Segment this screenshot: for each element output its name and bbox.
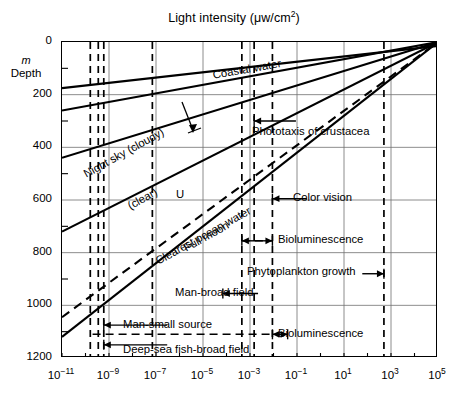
- x-tick-label: 10−3: [224, 366, 274, 381]
- y-axis-label: m Depth: [0, 54, 52, 79]
- plot-area: Night sky (cloudy) (clear) Full moon Coa…: [61, 41, 437, 357]
- y-tick-label: 1000: [8, 297, 52, 309]
- x-tick-label: 101: [318, 366, 368, 381]
- y-tick-label: 400: [8, 139, 52, 151]
- annotation-bioluminescence-lower: Bioluminescence: [278, 328, 363, 339]
- y-axis-name: Depth: [11, 67, 42, 79]
- y-tick-label: 200: [8, 87, 52, 99]
- grid-lines: [62, 42, 437, 357]
- y-tick-label: 800: [8, 245, 52, 257]
- annotation-man-small-source: Man-small source: [123, 319, 212, 330]
- x-tick-label: 10−5: [177, 366, 227, 381]
- y-tick-label: 600: [8, 192, 52, 204]
- chart-figure: Light intensity (μw/cm2) m Depth 0200400…: [0, 0, 468, 402]
- x-tick-label: 10−7: [130, 366, 180, 381]
- annotation-man-broad-field: Man-broad field: [175, 287, 254, 298]
- chart-title-main: Light intensity (μw/cm: [168, 11, 291, 25]
- annotation-phototaxis: Phototaxis of crustacea: [252, 126, 369, 137]
- annotation-bioluminescence-upper: Bioluminescence: [278, 234, 363, 245]
- y-tick-label: 1200: [8, 350, 52, 362]
- plot-canvas: [62, 42, 437, 357]
- x-tick-label: 103: [365, 366, 415, 381]
- x-tick-label: 105: [412, 366, 462, 381]
- chart-title-tail: ): [296, 11, 300, 25]
- curve-label-u: U: [176, 188, 184, 200]
- x-tick-label: 10−11: [36, 366, 86, 381]
- annotation-deep-sea-fish: Deep-sea fish-broad field: [123, 344, 249, 355]
- annotation-color-vision: Color vision: [293, 192, 352, 203]
- x-tick-label: 10−1: [271, 366, 321, 381]
- x-tick-label: 10−9: [83, 366, 133, 381]
- chart-title: Light intensity (μw/cm2): [0, 9, 468, 25]
- annotation-phytoplankton: Phytoplankton growth: [247, 266, 356, 277]
- y-tick-label: 0: [8, 34, 52, 46]
- y-axis-unit: m: [0, 54, 52, 67]
